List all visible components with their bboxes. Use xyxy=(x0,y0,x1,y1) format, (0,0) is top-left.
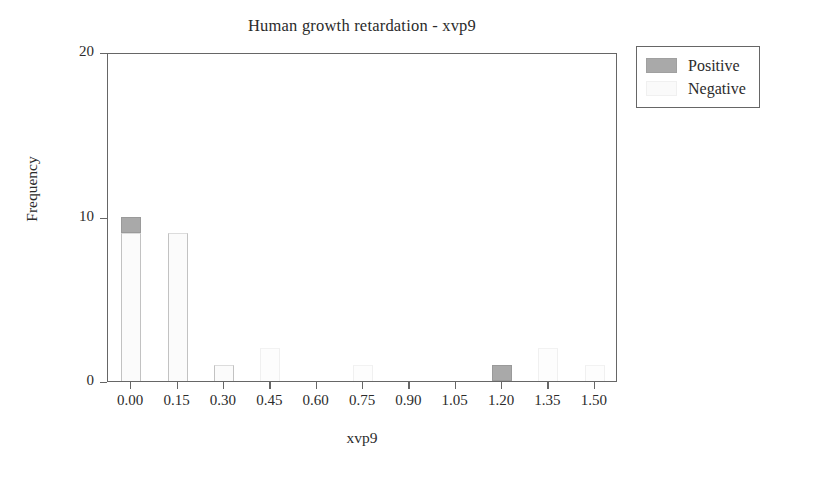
bar-segment-negative xyxy=(168,233,188,381)
y-tick-mark xyxy=(100,218,107,219)
bar-1-20 xyxy=(492,365,512,381)
y-tick-label: 10 xyxy=(48,208,94,225)
y-tick-label: 0 xyxy=(48,372,94,389)
bar-segment-negative xyxy=(538,348,558,381)
legend-label: Negative xyxy=(688,80,746,98)
legend-item-positive: Positive xyxy=(646,54,746,77)
bar-segment-negative xyxy=(214,365,234,381)
x-tick-mark xyxy=(177,382,178,389)
x-tick-mark xyxy=(594,382,595,389)
y-tick-mark xyxy=(100,53,107,54)
x-tick-mark xyxy=(130,382,131,389)
legend-label: Positive xyxy=(688,57,740,75)
x-tick-mark xyxy=(501,382,502,389)
plot-frame xyxy=(107,53,617,382)
bar-0-45 xyxy=(260,348,280,381)
x-tick-mark xyxy=(316,382,317,389)
y-axis-label: Frequency xyxy=(23,129,41,249)
bar-segment-negative xyxy=(585,365,605,381)
bar-segment-positive xyxy=(492,365,512,381)
negative-swatch xyxy=(646,81,677,96)
bar-segment-positive xyxy=(121,217,141,233)
x-tick-mark xyxy=(223,382,224,389)
legend-item-negative: Negative xyxy=(646,77,746,100)
bar-0-15 xyxy=(168,233,188,381)
bar-segment-negative xyxy=(121,233,141,381)
bar-1-50 xyxy=(585,365,605,381)
x-tick-mark xyxy=(455,382,456,389)
chart-title: Human growth retardation - xvp9 xyxy=(107,16,617,36)
y-tick-mark xyxy=(100,382,107,383)
bar-0-00 xyxy=(121,217,141,382)
bar-0-75 xyxy=(353,365,373,381)
y-tick-label: 20 xyxy=(48,43,94,60)
bar-1-35 xyxy=(538,348,558,381)
positive-swatch xyxy=(646,58,677,73)
x-tick-mark xyxy=(362,382,363,389)
x-tick-mark xyxy=(269,382,270,389)
bar-segment-negative xyxy=(353,365,373,381)
x-axis-label: xvp9 xyxy=(107,429,617,447)
chart-figure: Human growth retardation - xvp9 0.000.15… xyxy=(0,0,827,491)
x-tick-mark xyxy=(408,382,409,389)
chart-legend: PositiveNegative xyxy=(636,46,760,108)
bar-0-30 xyxy=(214,365,234,381)
x-tick-label: 1.50 xyxy=(566,392,622,409)
bar-segment-negative xyxy=(260,348,280,381)
x-tick-mark xyxy=(547,382,548,389)
plot-area xyxy=(108,54,616,381)
